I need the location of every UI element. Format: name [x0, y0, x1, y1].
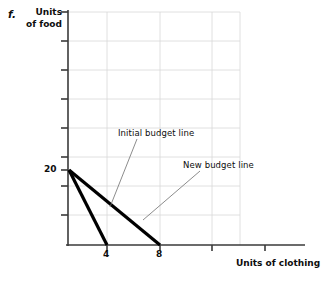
- new-budget-leader-line: [143, 171, 200, 220]
- initial-budget-leader-line: [110, 139, 137, 207]
- y-tick-label-20: 20: [44, 164, 57, 174]
- annotation-initial-budget-line: Initial budget line: [118, 128, 194, 138]
- x-tick-label-4: 4: [103, 249, 109, 259]
- figure-panel: f. Units of food: [0, 0, 322, 282]
- x-axis-ticks: [107, 245, 265, 251]
- new-budget-line: [69, 170, 160, 245]
- x-axis-title: Units of clothing: [236, 258, 320, 268]
- x-tick-label-8: 8: [156, 249, 162, 259]
- y-axis-ticks: [61, 12, 68, 215]
- chart-canvas: [0, 0, 322, 282]
- horizontal-gridlines: [68, 12, 240, 215]
- annotation-new-budget-line: New budget line: [183, 160, 254, 170]
- initial-budget-line: [69, 170, 107, 245]
